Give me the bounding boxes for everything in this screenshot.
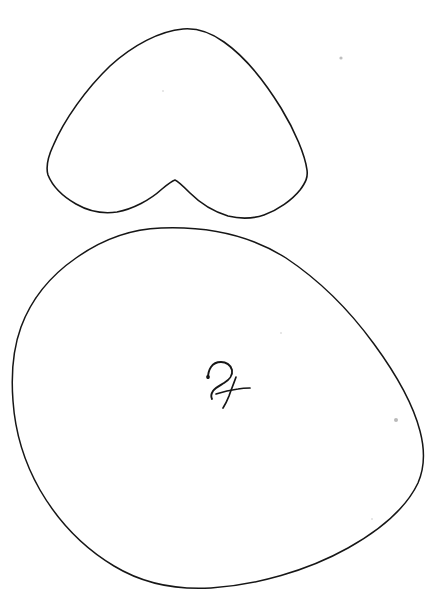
- speck-lower-right: [371, 518, 373, 520]
- sketch-drawing: [0, 0, 440, 598]
- rx-loop-dot: [206, 375, 210, 379]
- speck-mid-right: [394, 418, 398, 422]
- speck-center: [280, 332, 282, 334]
- sketch-canvas: Hand-drawn outline of a heart-like shape…: [0, 0, 440, 598]
- speck-top-right: [339, 56, 342, 59]
- paper-background: [0, 0, 440, 598]
- speck-upper-mid: [162, 90, 164, 92]
